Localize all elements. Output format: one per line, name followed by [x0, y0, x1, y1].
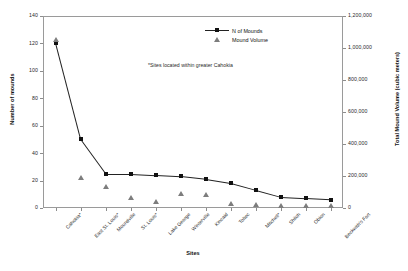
y-axis-right-title: Total Mound Volume (cubic meters) [394, 39, 400, 159]
y-axis-right-tick-mark [343, 16, 346, 17]
y-axis-left-tick-mark [40, 98, 43, 99]
x-axis-tick-mark [81, 208, 82, 211]
chart-container: Number of mounds Total Mound Volume (cub… [0, 0, 408, 271]
y-axis-right-tick-mark [343, 48, 346, 49]
x-axis-tick-mark [181, 208, 182, 211]
x-axis-category-label: Kincaid [213, 212, 228, 227]
data-point-n-of-mounds [179, 174, 183, 178]
y-axis-left-tick-label: 120 [4, 41, 38, 46]
data-point-mound-volume [303, 203, 309, 208]
data-point-mound-volume [328, 203, 334, 208]
y-axis-left-tick-label: 140 [4, 13, 38, 18]
data-point-mound-volume [78, 175, 84, 180]
data-point-mound-volume [228, 201, 234, 206]
chart-legend: N of Mounds Mound Volume [205, 26, 268, 44]
x-axis-tick-mark [331, 208, 332, 211]
y-axis-left-tick-mark [40, 16, 43, 17]
y-axis-left-tick-mark [40, 153, 43, 154]
y-axis-left-tick-mark [40, 208, 43, 209]
x-axis-tick-mark [106, 208, 107, 211]
x-axis-tick-mark [56, 208, 57, 211]
data-point-mound-volume [103, 184, 109, 189]
y-axis-right-tick-label: 1,000,000 [348, 45, 394, 50]
x-axis-tick-mark [306, 208, 307, 211]
data-point-mound-volume [253, 202, 259, 207]
y-axis-right-tick-label: 400,000 [348, 141, 394, 146]
data-point-n-of-mounds [129, 172, 133, 176]
y-axis-right-tick-label: 1,200,000 [348, 13, 394, 18]
data-point-mound-volume [153, 199, 159, 204]
data-point-n-of-mounds [329, 198, 333, 202]
legend-label: N of Mounds [232, 28, 263, 34]
x-axis-category-label: Cahokia* [64, 212, 82, 230]
chart-annotation: *Sites located within greater Cahokia [148, 62, 233, 68]
series-line-segment [106, 174, 131, 175]
x-axis-tick-mark [131, 208, 132, 211]
x-axis-category-label: Shiloh [288, 212, 301, 225]
plot-area [43, 16, 343, 208]
data-point-n-of-mounds [304, 196, 308, 200]
x-axis-tick-mark [256, 208, 257, 211]
legend-item-n-of-mounds: N of Mounds [205, 26, 268, 35]
y-axis-left-tick-label: 100 [4, 68, 38, 73]
y-axis-right-tick-label: 600,000 [348, 109, 394, 114]
y-axis-right-tick-mark [343, 144, 346, 145]
data-point-n-of-mounds [254, 188, 258, 192]
x-axis-tick-mark [281, 208, 282, 211]
y-axis-left-tick-mark [40, 71, 43, 72]
y-axis-right-tick-label: 200,000 [348, 173, 394, 178]
x-axis-category-label: Mitchell* [264, 212, 281, 229]
x-axis-category-label: St. Louis* [140, 212, 159, 231]
data-point-n-of-mounds [104, 172, 108, 176]
x-axis-tick-mark [206, 208, 207, 211]
x-axis-title: Sites [43, 250, 343, 256]
data-point-n-of-mounds [154, 173, 158, 177]
data-point-n-of-mounds [204, 177, 208, 181]
data-point-mound-volume [128, 195, 134, 200]
x-axis-category-label: Toltec [237, 212, 250, 225]
y-axis-right-tick-mark [343, 208, 346, 209]
data-point-mound-volume [203, 192, 209, 197]
y-axis-left-tick-mark [40, 181, 43, 182]
x-axis-category-label: Beckwith's Fort [343, 212, 370, 239]
y-axis-right-tick-mark [343, 80, 346, 81]
y-axis-left-tick-label: 60 [4, 123, 38, 128]
data-point-n-of-mounds [229, 181, 233, 185]
data-point-mound-volume [178, 191, 184, 196]
y-axis-left-tick-mark [40, 126, 43, 127]
y-axis-left-tick-label: 40 [4, 151, 38, 156]
y-axis-left-tick-mark [40, 43, 43, 44]
legend-item-mound-volume: Mound Volume [205, 35, 268, 44]
x-axis-tick-mark [231, 208, 232, 211]
legend-label: Mound Volume [232, 37, 268, 43]
legend-marker-triangle-icon [205, 35, 229, 44]
data-point-n-of-mounds [79, 137, 83, 141]
y-axis-right-tick-mark [343, 112, 346, 113]
y-axis-left-tick-label: 20 [4, 178, 38, 183]
x-axis-category-label: Obion [312, 212, 325, 225]
x-axis-tick-mark [156, 208, 157, 211]
x-axis-category-label: Lake George [167, 212, 191, 236]
y-axis-right-tick-mark [343, 176, 346, 177]
data-point-n-of-mounds [54, 41, 58, 45]
legend-marker-square-line-icon [205, 26, 229, 35]
x-axis-category-label: Winterville [190, 212, 210, 232]
y-axis-right-tick-label: 800,000 [348, 77, 394, 82]
data-point-mound-volume [53, 37, 59, 42]
data-point-mound-volume [278, 203, 284, 208]
y-axis-left-tick-label: 0 [4, 205, 38, 210]
x-axis-category-label: East St. Louis* [93, 212, 120, 239]
data-point-n-of-mounds [279, 195, 283, 199]
y-axis-right-tick-label: 0 [348, 205, 394, 210]
y-axis-left-tick-label: 80 [4, 96, 38, 101]
